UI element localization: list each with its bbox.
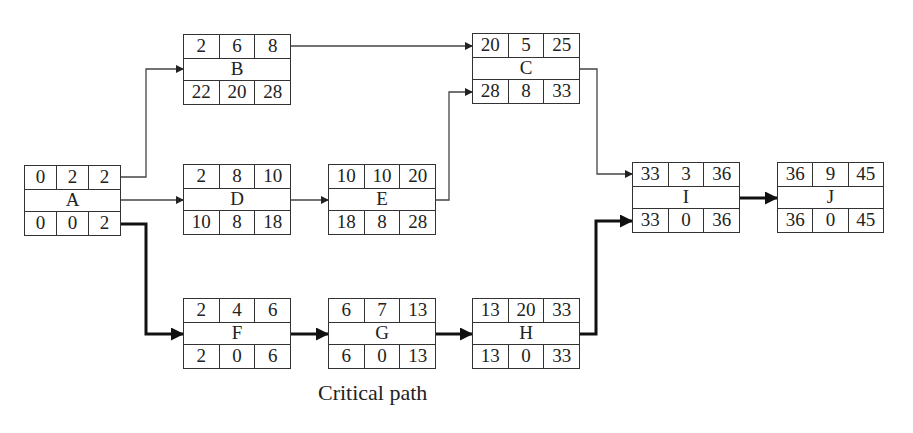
node-e-es: 10 [329, 165, 365, 188]
node-c-float: 8 [509, 80, 545, 103]
node-j-ls: 36 [778, 209, 813, 232]
node-h: 132033 H 13033 [472, 298, 580, 369]
node-i-ef: 36 [704, 163, 739, 186]
node-a-float: 0 [57, 212, 89, 235]
node-f-lf: 6 [255, 345, 290, 368]
node-e-ef: 20 [400, 165, 435, 188]
node-g-es: 6 [329, 299, 365, 322]
node-d-lf: 18 [255, 211, 290, 234]
edge-a-b [121, 69, 183, 177]
node-d-ef: 10 [255, 165, 290, 188]
node-i-label: I [683, 186, 689, 208]
node-e-lf: 28 [400, 211, 435, 234]
node-e-ls: 18 [329, 211, 365, 234]
node-f-label: F [232, 322, 243, 344]
edge-c-i [580, 69, 632, 174]
node-i: 33336 I 33036 [632, 162, 740, 233]
node-e-label: E [376, 188, 388, 210]
node-j-es: 36 [778, 163, 813, 186]
edge-h-i [580, 221, 632, 334]
node-d-label: D [230, 188, 244, 210]
node-j-ef: 45 [849, 163, 883, 186]
node-g: 6713 G 6013 [328, 298, 436, 369]
node-j-lf: 45 [849, 209, 883, 232]
node-c-ef: 25 [544, 34, 579, 57]
node-d-ls: 10 [184, 211, 220, 234]
node-g-ef: 13 [400, 299, 435, 322]
node-g-label: G [375, 322, 389, 344]
node-a-label: A [66, 189, 80, 211]
node-c: 20525 C 28833 [472, 33, 580, 104]
critical-path-caption: Critical path [318, 380, 427, 406]
node-g-lf: 13 [400, 345, 435, 368]
node-c-label: C [520, 57, 533, 79]
node-b-es: 2 [184, 35, 220, 58]
node-b-ef: 8 [255, 35, 290, 58]
node-c-duration: 5 [509, 34, 545, 57]
node-a-es: 0 [25, 166, 57, 189]
node-h-ls: 13 [473, 345, 509, 368]
node-h-duration: 20 [509, 299, 545, 322]
node-g-float: 0 [365, 345, 401, 368]
node-f-es: 2 [184, 299, 220, 322]
node-h-label: H [519, 322, 533, 344]
node-f: 246 F 206 [183, 298, 291, 369]
node-j-label: J [827, 186, 834, 208]
node-j: 36945 J 36045 [777, 162, 884, 233]
node-j-duration: 9 [813, 163, 848, 186]
node-f-ef: 6 [255, 299, 290, 322]
node-h-ef: 33 [544, 299, 579, 322]
node-d-duration: 8 [220, 165, 256, 188]
node-a-lf: 2 [89, 212, 120, 235]
node-b-duration: 6 [220, 35, 256, 58]
node-b-ls: 22 [184, 81, 220, 104]
node-e: 101020 E 18828 [328, 164, 436, 235]
node-b: 268 B 222028 [183, 34, 291, 105]
node-b-float: 20 [220, 81, 256, 104]
node-g-ls: 6 [329, 345, 365, 368]
node-h-lf: 33 [544, 345, 579, 368]
node-b-lf: 28 [255, 81, 290, 104]
node-a-ef: 2 [89, 166, 120, 189]
node-e-float: 8 [365, 211, 401, 234]
node-i-es: 33 [633, 163, 669, 186]
node-f-float: 0 [220, 345, 256, 368]
node-d-es: 2 [184, 165, 220, 188]
node-a-duration: 2 [57, 166, 89, 189]
node-b-label: B [231, 58, 244, 80]
node-i-float: 0 [669, 209, 705, 232]
node-i-duration: 3 [669, 163, 705, 186]
node-a-ls: 0 [25, 212, 57, 235]
node-c-ls: 28 [473, 80, 509, 103]
node-g-duration: 7 [365, 299, 401, 322]
node-d-float: 8 [220, 211, 256, 234]
node-h-es: 13 [473, 299, 509, 322]
node-j-float: 0 [813, 209, 848, 232]
node-f-duration: 4 [220, 299, 256, 322]
node-c-es: 20 [473, 34, 509, 57]
edge-e-c [436, 92, 472, 200]
node-c-lf: 33 [544, 80, 579, 103]
edge-a-f [121, 224, 183, 334]
node-i-lf: 36 [704, 209, 739, 232]
node-f-ls: 2 [184, 345, 220, 368]
node-h-float: 0 [509, 345, 545, 368]
node-e-duration: 10 [365, 165, 401, 188]
node-i-ls: 33 [633, 209, 669, 232]
node-d: 2810 D 10818 [183, 164, 291, 235]
node-a: 022 A 002 [24, 165, 121, 236]
